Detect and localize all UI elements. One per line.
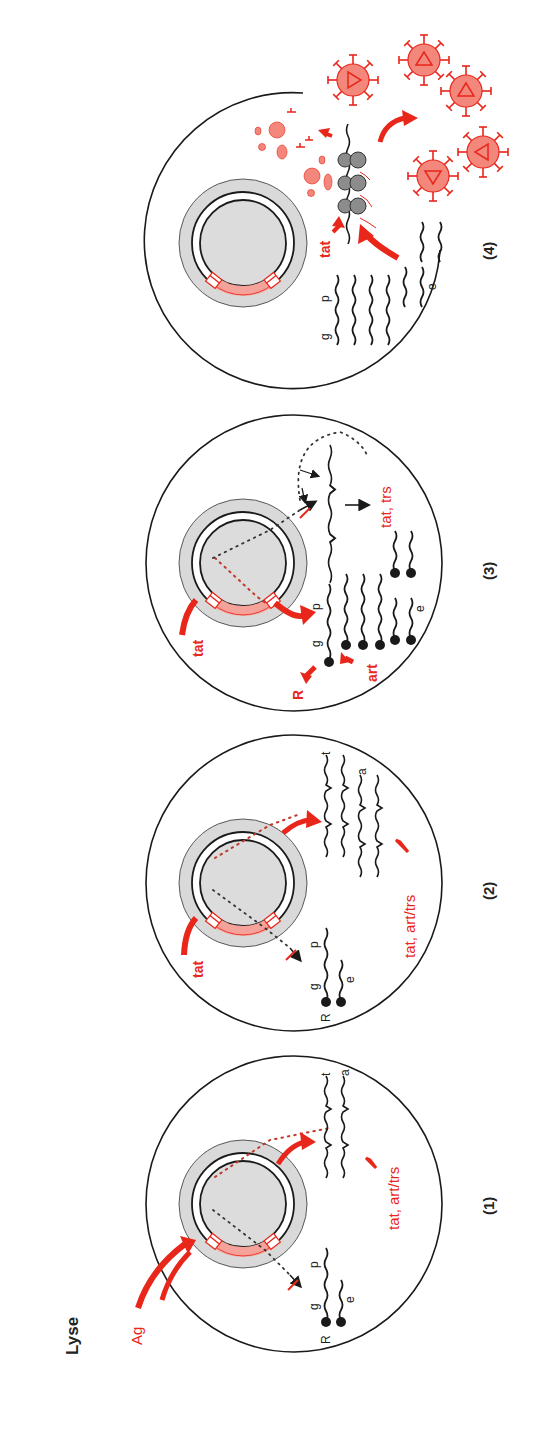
panel-3: tat tat, trs g p e R art (3) (146, 415, 497, 711)
panel-label: (2) (480, 882, 497, 900)
panel-label: (4) (480, 242, 497, 260)
svg-text:p: p (307, 1261, 321, 1268)
svg-text:g: g (307, 1303, 321, 1310)
panel-4: tat g p e (4) (144, 26, 517, 389)
svg-text:R: R (319, 1335, 333, 1344)
svg-text:t: t (319, 751, 333, 755)
figure-title: Lyse (63, 1317, 82, 1355)
svg-text:t: t (319, 1072, 333, 1076)
panel-2: tat R g p e t a tat, art/trs (2) (146, 735, 497, 1031)
svg-text:p: p (318, 295, 332, 302)
svg-text:g: g (309, 640, 323, 647)
svg-text:e: e (425, 283, 439, 290)
hiv-lysis-diagram: Lyse Ag R g p e t a tat, art/trs (1 (0, 0, 536, 1439)
svg-text:e: e (413, 605, 427, 612)
svg-text:R: R (319, 1013, 333, 1022)
panel-label: (3) (480, 562, 497, 580)
svg-text:p: p (307, 941, 321, 948)
ag-label: Ag (128, 1327, 145, 1345)
product-label: tat, trs (377, 486, 394, 528)
svg-text:g: g (318, 333, 332, 340)
svg-text:g: g (307, 983, 321, 990)
tat-label: tat (190, 961, 206, 978)
svg-text:a: a (355, 768, 369, 775)
panel-label: (1) (480, 1197, 497, 1215)
svg-text:e: e (343, 976, 357, 983)
svg-text:p: p (309, 603, 323, 610)
nucleus (179, 819, 307, 947)
panel-1: Ag R g p e t a tat, art/trs (1) (128, 1056, 497, 1352)
svg-text:e: e (343, 1296, 357, 1303)
nucleus (179, 179, 307, 307)
art-label: art (364, 664, 380, 682)
ribosomes (338, 152, 366, 214)
product-label: tat, art/trs (385, 1167, 402, 1230)
svg-text:a: a (338, 1069, 352, 1076)
product-label: tat, art/trs (401, 895, 418, 958)
r-label: R (290, 690, 306, 700)
tat-label: tat (317, 241, 333, 258)
tat-label: tat (190, 640, 206, 657)
